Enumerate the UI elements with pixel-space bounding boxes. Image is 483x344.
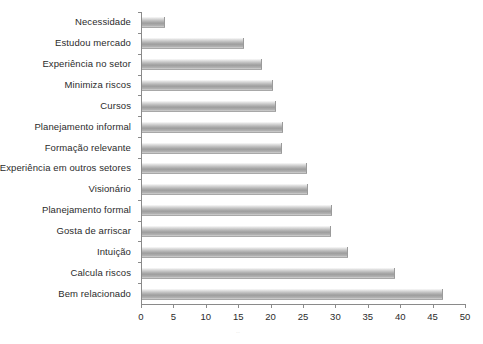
bar-baseline xyxy=(142,236,331,237)
x-axis-tick-label: 45 xyxy=(427,311,438,322)
y-axis-tick xyxy=(138,95,141,96)
category-label: Intuição xyxy=(97,245,131,259)
category-label: Estudou mercado xyxy=(55,36,131,50)
x-axis-tick xyxy=(465,304,466,308)
x-axis-tick-label: 30 xyxy=(330,311,341,322)
y-axis-tick xyxy=(138,262,141,263)
category-label: Experiência no setor xyxy=(42,57,131,71)
category-label: Calcula riscos xyxy=(70,266,131,280)
x-axis-tick-label: 20 xyxy=(265,311,276,322)
bar xyxy=(142,38,244,48)
category-label: Cursos xyxy=(100,99,131,113)
y-axis-tick xyxy=(138,75,141,76)
x-axis-tick-label: 35 xyxy=(363,311,374,322)
x-axis-tick xyxy=(303,304,304,308)
category-axis-labels: NecessidadeEstudou mercadoExperiência no… xyxy=(0,12,136,304)
y-axis-tick xyxy=(138,221,141,222)
x-axis-tick-label: 15 xyxy=(233,311,244,322)
bar-baseline xyxy=(142,194,308,195)
x-axis-tick xyxy=(238,304,239,308)
category-label: Planejamento formal xyxy=(42,203,131,217)
y-axis-tick xyxy=(138,283,141,284)
bar xyxy=(142,184,308,194)
y-axis-tick xyxy=(138,54,141,55)
bar xyxy=(142,80,273,90)
category-label: Bem relacionado xyxy=(58,287,131,301)
category-label: Planejamento informal xyxy=(34,120,131,134)
category-label: Necessidade xyxy=(75,15,131,29)
x-axis-tick-label: 5 xyxy=(171,311,176,322)
bar-baseline xyxy=(142,299,443,300)
bar-baseline xyxy=(142,27,165,28)
x-axis-tick xyxy=(335,304,336,308)
bar xyxy=(142,122,283,132)
x-axis-tick xyxy=(271,304,272,308)
x-axis-tick xyxy=(400,304,401,308)
x-axis-tick-label: 10 xyxy=(201,311,212,322)
category-label: Gosta de arriscar xyxy=(56,224,131,238)
y-axis-tick xyxy=(138,12,141,13)
bar-baseline xyxy=(142,90,273,91)
y-axis-tick xyxy=(138,116,141,117)
bar xyxy=(142,143,282,153)
y-axis-tick xyxy=(138,158,141,159)
plot-area: 05101520253035404550 xyxy=(141,12,465,304)
bar-baseline xyxy=(142,173,307,174)
bar-baseline xyxy=(142,257,348,258)
y-axis-tick xyxy=(138,241,141,242)
bar-baseline xyxy=(142,153,282,154)
x-axis-tick xyxy=(368,304,369,308)
category-label: Visionário xyxy=(88,182,131,196)
x-axis-tick-label: 50 xyxy=(460,311,471,322)
bar-baseline xyxy=(142,111,276,112)
bar xyxy=(142,289,443,299)
bar xyxy=(142,205,332,215)
bar-baseline xyxy=(142,48,244,49)
bar-baseline xyxy=(142,215,332,216)
x-axis-tick xyxy=(433,304,434,308)
faint-artifact: .. xyxy=(236,327,240,334)
x-axis-tick xyxy=(173,304,174,308)
y-axis-tick xyxy=(138,179,141,180)
bar xyxy=(142,163,307,173)
y-axis-tick xyxy=(138,200,141,201)
x-axis-tick xyxy=(141,304,142,308)
x-axis-tick-label: 0 xyxy=(138,311,143,322)
bar-baseline xyxy=(142,278,395,279)
bar xyxy=(142,268,395,278)
x-axis-tick-label: 40 xyxy=(395,311,406,322)
bar xyxy=(142,17,165,27)
y-axis-tick xyxy=(138,33,141,34)
category-label: Experiência em outros setores xyxy=(0,161,131,175)
category-label: Formação relevante xyxy=(45,141,131,155)
bar-chart: NecessidadeEstudou mercadoExperiência no… xyxy=(0,0,483,344)
x-axis-tick xyxy=(206,304,207,308)
bar-baseline xyxy=(142,69,262,70)
bar xyxy=(142,247,348,257)
bar xyxy=(142,101,276,111)
category-label: Minimiza riscos xyxy=(65,78,131,92)
bar xyxy=(142,226,331,236)
x-axis-tick-label: 25 xyxy=(298,311,309,322)
y-axis-tick xyxy=(138,137,141,138)
bar xyxy=(142,59,262,69)
y-axis-line xyxy=(141,12,142,304)
bar-baseline xyxy=(142,132,283,133)
